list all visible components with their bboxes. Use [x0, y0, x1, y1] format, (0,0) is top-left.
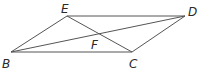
label-f: F: [91, 38, 99, 52]
label-c: C: [129, 57, 138, 71]
parallelogram-diagram: E D B C F: [0, 0, 201, 74]
label-d: D: [188, 5, 197, 19]
label-b: B: [2, 57, 10, 71]
label-e: E: [61, 2, 69, 16]
diagonal-ec: [67, 16, 132, 52]
